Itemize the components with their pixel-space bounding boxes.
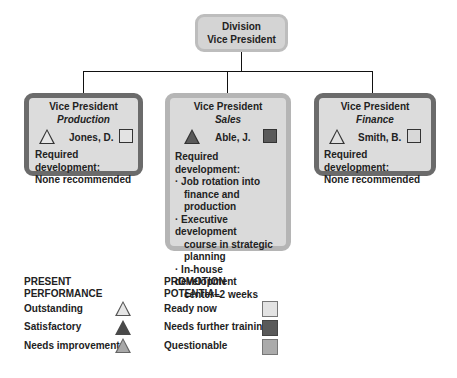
legend-potential-label: Ready now: [164, 303, 217, 314]
legend-performance-title1: PRESENT: [24, 276, 174, 288]
division-vp-box: Division Vice President: [195, 14, 288, 52]
vp-production-box: Vice President Production Jones, D. Requ…: [24, 93, 143, 176]
vp-sales-box: Vice President Sales Able, J. Required d…: [165, 93, 291, 251]
vp-candidate-row: Smith, B.: [319, 126, 431, 148]
connector-left-vertical: [83, 71, 84, 93]
legend-potential: PROMOTION POTENTIAL: [164, 276, 314, 300]
legend-performance: PRESENT PERFORMANCE: [24, 276, 174, 300]
vp-dept: Sales: [170, 114, 286, 127]
legend-ready-now-icon: [262, 301, 278, 317]
dev-item: · Job rotation into: [170, 176, 286, 189]
vp-dept: Finance: [319, 114, 431, 127]
legend-performance-label: Outstanding: [24, 303, 83, 314]
legend-performance-label: Needs improvement: [24, 340, 120, 351]
vp-title: Vice President: [29, 101, 138, 114]
connector-horizontal: [83, 71, 373, 72]
vp-candidate-row: Jones, D.: [29, 126, 138, 148]
vp-title: Vice President: [319, 101, 431, 114]
performance-outstanding-icon-fill: [331, 131, 343, 143]
dev-label: Required development:: [170, 151, 286, 176]
division-vp-line2: Vice President: [198, 33, 285, 46]
legend-outstanding-icon-fill: [117, 303, 129, 315]
dev-item: None recommended: [29, 174, 138, 187]
vp-title: Vice President: [170, 101, 286, 114]
legend-potential-label: Questionable: [164, 340, 227, 351]
legend-needs-training-icon: [262, 320, 278, 336]
candidate-name: Able, J.: [215, 132, 251, 145]
candidate-name: Smith, B.: [358, 132, 401, 145]
vp-dept: Production: [29, 114, 138, 127]
dev-label: Required development:: [29, 149, 138, 174]
candidate-name: Jones, D.: [69, 132, 113, 145]
legend-performance-title2: PERFORMANCE: [24, 288, 174, 300]
legend-potential-title2: POTENTIAL: [164, 288, 314, 300]
potential-needs-training-icon: [263, 129, 277, 143]
dev-item: planning: [170, 251, 286, 264]
connector-middle-vertical: [227, 71, 228, 93]
performance-outstanding-icon-fill: [41, 131, 53, 143]
connector-right-vertical: [372, 71, 373, 93]
legend-questionable-icon: [262, 339, 278, 355]
legend-potential-label: Needs further training: [164, 321, 268, 332]
dev-item: None recommended: [319, 174, 431, 187]
dev-item: · Executive development: [170, 214, 286, 239]
legend-needs-improvement-icon-fill: [117, 340, 129, 352]
vp-candidate-row: Able, J.: [170, 126, 286, 148]
dev-label: Required development:: [319, 149, 431, 174]
potential-ready-now-icon: [407, 129, 421, 143]
dev-item: course in strategic: [170, 239, 286, 252]
vp-finance-box: Vice President Finance Smith, B. Require…: [314, 93, 436, 176]
legend-satisfactory-icon: [115, 320, 131, 335]
performance-satisfactory-icon-fill: [186, 131, 198, 143]
potential-ready-now-icon: [119, 129, 133, 143]
connector-top-vertical: [241, 52, 242, 71]
dev-item: finance and production: [170, 189, 286, 214]
legend-potential-title1: PROMOTION: [164, 276, 314, 288]
legend-performance-label: Satisfactory: [24, 321, 81, 332]
division-vp-line1: Division: [198, 20, 285, 33]
